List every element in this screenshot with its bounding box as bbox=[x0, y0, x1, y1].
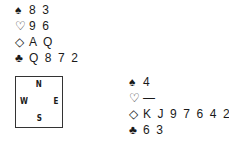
compass-west-label: W bbox=[20, 96, 28, 106]
spade-icon: ♠ bbox=[15, 2, 29, 18]
diamond-icon: ◇ bbox=[15, 34, 29, 50]
compass-box: N W E S bbox=[15, 76, 63, 128]
east-hearts-row: ♡— bbox=[129, 90, 229, 106]
compass-east-label: E bbox=[54, 96, 59, 106]
east-spades-cards: 4 bbox=[143, 75, 151, 89]
north-hand: ♠8 3 ♡9 6 ◇A Q ♣Q 8 7 2 bbox=[15, 2, 80, 66]
club-icon: ♣ bbox=[15, 50, 29, 66]
east-hearts-cards: — bbox=[143, 91, 157, 105]
north-spades-cards: 8 3 bbox=[29, 3, 50, 17]
diamond-icon: ◇ bbox=[129, 106, 143, 122]
east-diamonds-cards: K J 9 7 6 4 2 bbox=[143, 107, 229, 121]
heart-icon: ♡ bbox=[15, 18, 29, 34]
spade-icon: ♠ bbox=[129, 74, 143, 90]
north-diamonds-row: ◇A Q bbox=[15, 34, 80, 50]
north-diamonds-cards: A Q bbox=[29, 35, 54, 49]
compass-north-label: N bbox=[36, 79, 42, 89]
heart-icon: ♡ bbox=[129, 90, 143, 106]
north-clubs-row: ♣Q 8 7 2 bbox=[15, 50, 80, 66]
east-hand: ♠4 ♡— ◇K J 9 7 6 4 2 ♣6 3 bbox=[129, 74, 229, 138]
north-hearts-cards: 9 6 bbox=[29, 19, 50, 33]
east-diamonds-row: ◇K J 9 7 6 4 2 bbox=[129, 106, 229, 122]
compass-south-label: S bbox=[37, 113, 42, 123]
north-hearts-row: ♡9 6 bbox=[15, 18, 80, 34]
north-spades-row: ♠8 3 bbox=[15, 2, 80, 18]
east-clubs-row: ♣6 3 bbox=[129, 122, 229, 138]
east-spades-row: ♠4 bbox=[129, 74, 229, 90]
north-clubs-cards: Q 8 7 2 bbox=[29, 51, 80, 65]
east-clubs-cards: 6 3 bbox=[143, 123, 164, 137]
club-icon: ♣ bbox=[129, 122, 143, 138]
